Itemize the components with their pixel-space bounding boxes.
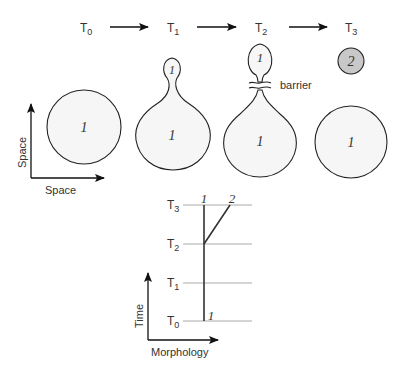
row-label-t2: T2	[167, 237, 179, 253]
barrier-symbol	[249, 82, 271, 88]
organism-t3: 2 1	[315, 48, 387, 178]
time-axis-label: Time	[133, 304, 145, 328]
space-axis-vertical-label: Space	[16, 137, 28, 168]
barrier-label: barrier	[280, 79, 312, 91]
lineage-2-branch	[204, 205, 230, 244]
timeline-header: T0 T1 T2 T3	[80, 21, 357, 37]
time-label-t1: T1	[167, 21, 179, 37]
organism-t0: 1	[47, 90, 121, 164]
lineage-2-top-label: 2	[229, 191, 236, 206]
time-label-t2: T2	[255, 21, 267, 37]
time-label-t3: T3	[345, 21, 357, 37]
row-label-t1: T1	[167, 276, 179, 292]
organism-t1: 1 1	[136, 58, 211, 170]
diagram-canvas: T0 T1 T2 T3 Space Space 1 1 1 1 1 barrie…	[0, 0, 407, 370]
organism-t2: 1 1 barrier	[224, 44, 313, 177]
bud-id-t1: 1	[169, 63, 175, 77]
organism-id-t1: 1	[169, 128, 176, 143]
organism-id-t3: 1	[348, 135, 355, 150]
lineage-chart: T3 T2 T1 T0 1 2 1 Time Morphology	[133, 191, 252, 358]
morphology-axis-label: Morphology	[151, 346, 209, 358]
organism-id-t0: 1	[81, 120, 88, 135]
lineage-1-top-label: 1	[201, 191, 208, 206]
row-label-t3: T3	[167, 198, 179, 214]
offspring-id-t3: 2	[348, 54, 355, 69]
bud-id-t2: 1	[257, 50, 264, 65]
row-label-t0: T0	[167, 314, 179, 330]
lineage-1-bottom-label: 1	[208, 308, 215, 323]
space-axis-horizontal-label: Space	[45, 184, 76, 196]
time-label-t0: T0	[80, 21, 92, 37]
organism-id-t2: 1	[257, 134, 264, 149]
